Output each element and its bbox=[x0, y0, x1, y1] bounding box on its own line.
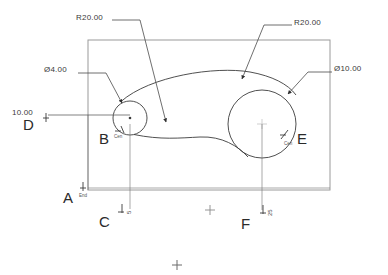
crosshair-marker-2 bbox=[172, 260, 182, 270]
drawing-vector-layer bbox=[0, 0, 388, 275]
dimension-label-diameter-small: Ø4.00 bbox=[44, 65, 67, 74]
dimension-label-radius-left: R20.00 bbox=[76, 13, 103, 22]
leader-diameter-small bbox=[78, 73, 122, 103]
reference-value-f: 25 bbox=[267, 209, 273, 216]
leader-radius-left bbox=[112, 20, 166, 122]
reference-value-c: 5 bbox=[126, 211, 132, 214]
small-circle-center-dot bbox=[129, 117, 132, 120]
cad-drawing-canvas: R20.00 R20.00 Ø4.00 Ø10.00 10.00 A End B… bbox=[0, 0, 388, 275]
dimension-label-diameter-large: Ø10.00 bbox=[334, 64, 361, 73]
reference-letter-a: A bbox=[63, 189, 73, 206]
upper-profile-arc bbox=[121, 70, 296, 101]
crosshair-marker-1 bbox=[205, 205, 215, 215]
dimension-label-radius-right: R20.00 bbox=[294, 18, 321, 27]
snap-tag-b: Cen bbox=[114, 134, 122, 139]
reference-letter-b: B bbox=[99, 130, 109, 147]
snap-tag-a: End bbox=[79, 193, 87, 198]
reference-letter-f: F bbox=[241, 215, 250, 232]
reference-letter-d: D bbox=[23, 116, 34, 133]
leader-radius-right bbox=[242, 25, 292, 79]
reference-letter-c: C bbox=[99, 213, 110, 230]
snap-tag-e: Cen bbox=[284, 141, 292, 146]
construction-lines bbox=[88, 115, 330, 210]
leader-diameter-large bbox=[288, 72, 332, 94]
reference-letter-e: E bbox=[297, 130, 307, 147]
snap-markers bbox=[43, 113, 288, 214]
